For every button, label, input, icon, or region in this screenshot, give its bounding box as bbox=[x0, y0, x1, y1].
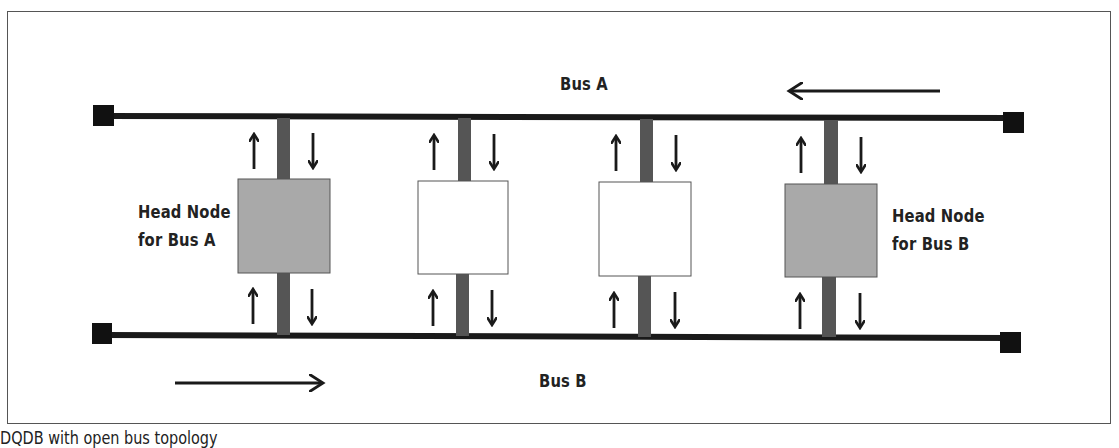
node-stub-top bbox=[824, 120, 838, 184]
node-stub-bottom bbox=[456, 273, 469, 336]
node-station-3 bbox=[599, 119, 691, 337]
node-stub-bottom bbox=[638, 276, 651, 337]
bus-a-right-terminator bbox=[1003, 112, 1024, 133]
head-node-b-label: Head Node for Bus B bbox=[892, 202, 985, 258]
node-stub-top bbox=[458, 118, 471, 181]
bus-a-left-terminator bbox=[93, 105, 114, 126]
node-head-bus-b bbox=[785, 120, 877, 337]
bus-a-label: Bus A bbox=[560, 73, 608, 94]
station-node-box bbox=[418, 181, 508, 274]
node-stub-bottom bbox=[277, 272, 290, 335]
head-node-a-label: Head Node for Bus A bbox=[138, 198, 231, 254]
head-node-box bbox=[238, 179, 330, 273]
node-head-bus-a bbox=[238, 118, 330, 335]
figure-caption: DQDB with open bus topology bbox=[0, 428, 218, 448]
node-stub-bottom bbox=[822, 277, 836, 337]
node-stub-top bbox=[277, 118, 290, 180]
head-node-a-label-line1: Head Node bbox=[138, 198, 231, 226]
node-stub-top bbox=[640, 119, 653, 182]
bus-a-line bbox=[106, 116, 1010, 118]
bus-b-line bbox=[104, 335, 1008, 338]
head-node-b-label-line1: Head Node bbox=[892, 202, 985, 230]
bus-a bbox=[93, 91, 1024, 133]
bus-b-label: Bus B bbox=[539, 370, 587, 391]
station-node-box bbox=[599, 182, 691, 276]
bus-b-left-terminator bbox=[92, 323, 112, 344]
node-station-2 bbox=[418, 118, 508, 336]
head-node-box bbox=[785, 184, 877, 277]
head-node-b-label-line2: for Bus B bbox=[892, 230, 985, 258]
head-node-a-label-line2: for Bus A bbox=[138, 226, 231, 254]
bus-b-right-terminator bbox=[1000, 332, 1021, 353]
